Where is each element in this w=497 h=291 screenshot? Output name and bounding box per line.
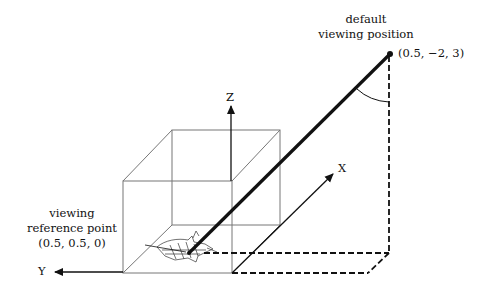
viewpoint-label-2: viewing position (317, 27, 414, 41)
view-direction-line (189, 54, 390, 253)
ref-label-1: viewing (48, 206, 95, 220)
label-z: Z (226, 90, 234, 104)
angle-arc (357, 89, 389, 102)
viewpoint-label-1: default (346, 12, 387, 26)
ref-coords: (0.5, 0.5, 0) (38, 236, 106, 250)
viewpoint-coords: (0.5, −2, 3) (398, 46, 464, 60)
ref-label-2: reference point (27, 221, 117, 235)
label-y: Y (37, 264, 46, 278)
viewing-diagram: Z X Y default viewing position (0.5, −2,… (0, 0, 497, 291)
x-axis (232, 174, 333, 273)
viewpoint-dot (387, 51, 393, 57)
label-x: X (338, 161, 347, 175)
reference-point-dot (187, 251, 191, 255)
